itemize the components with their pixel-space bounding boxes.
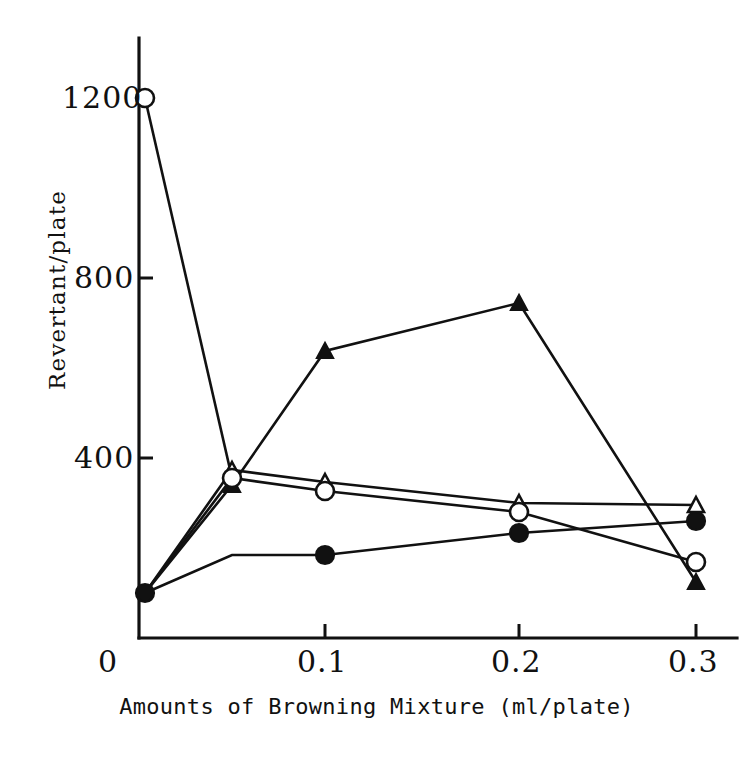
marker-filled-circle (510, 524, 528, 542)
marker-open-circle (223, 469, 241, 487)
marker-open-circle (687, 553, 705, 571)
series-line-filled-circle (145, 521, 696, 593)
y-tick-label-800: 800 (74, 260, 134, 295)
series-segment-open-circle-top (145, 98, 232, 478)
series-line-open-circle (145, 478, 696, 593)
x-tick-label-0: 0 (98, 644, 118, 679)
y-axis-title-wrap: Revertant/plate (10, 190, 54, 530)
x-axis-title: Amounts of Browning Mixture (ml/plate) (0, 694, 753, 719)
x-tick-label-0-2: 0.2 (491, 644, 542, 679)
marker-filled-circle (136, 584, 154, 602)
marker-filled-circle (316, 546, 334, 564)
marker-open-circle (316, 482, 334, 500)
y-tick-label-400: 400 (74, 440, 134, 475)
x-tick-label-0-1: 0.1 (297, 644, 348, 679)
x-tick-label-0-3: 0.3 (668, 644, 719, 679)
marker-filled-triangle (511, 295, 527, 310)
marker-filled-circle (687, 512, 705, 530)
marker-filled-triangle (688, 574, 704, 589)
marker-open-circle (510, 503, 528, 521)
series-line-filled-triangle (145, 303, 696, 593)
chart-figure: 1200 800 400 0 0.1 0.2 0.3 Revertant/pla… (0, 0, 753, 762)
y-tick-label-1200: 1200 (62, 80, 142, 115)
y-axis-title: Revertant/plate (44, 190, 70, 390)
